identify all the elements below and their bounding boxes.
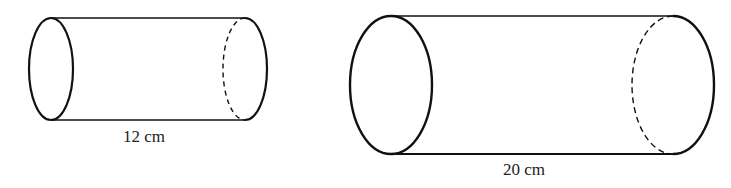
cylinders-figure bbox=[0, 0, 731, 188]
cylinder-small bbox=[29, 18, 267, 120]
cylinder-large-length-label: 20 cm bbox=[503, 160, 545, 180]
cylinder-large bbox=[350, 16, 714, 154]
cylinder-large-right-base-front bbox=[673, 16, 714, 154]
diagram-canvas: 12 cm 20 cm bbox=[0, 0, 731, 188]
cylinder-small-left-base bbox=[29, 18, 73, 120]
cylinder-large-left-base bbox=[350, 16, 432, 154]
cylinder-small-right-base-front bbox=[245, 18, 267, 120]
cylinder-small-right-base-back bbox=[223, 18, 245, 120]
cylinder-small-length-label: 12 cm bbox=[123, 127, 165, 147]
cylinder-large-right-base-back bbox=[632, 16, 673, 154]
